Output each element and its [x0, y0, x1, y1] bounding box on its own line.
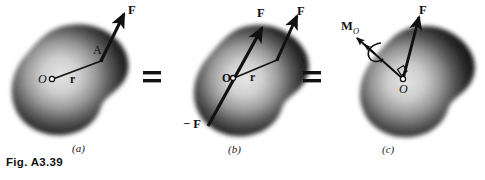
panel-c-blob-grain	[360, 26, 475, 137]
panel-c-label-O: O	[399, 82, 408, 96]
panel-a-label-r: r	[70, 73, 75, 85]
svg-text:M: M	[341, 19, 353, 33]
figure-caption: Fig. A3.39	[6, 156, 63, 168]
svg-text:O: O	[353, 26, 359, 36]
panel-label-a: (a)	[72, 142, 85, 154]
panel-b-label-F-at-O: F	[257, 6, 265, 20]
equals-sign-1-glyph	[143, 71, 161, 82]
panel-b-label-F-at-A: F	[297, 4, 305, 18]
panel-c-origin-dot	[400, 76, 405, 81]
panel-b-label-O: O	[222, 72, 231, 84]
panel-a-label-F: F	[128, 3, 136, 17]
panel-b-origin-dot	[231, 76, 236, 81]
figure-container: F A O r F F − F O r F M O O (a) (b) (c) …	[0, 0, 485, 180]
panel-a-label-O: O	[38, 72, 47, 86]
panel-c-label-Mo: M O	[341, 19, 359, 36]
panel-a-label-A: A	[93, 43, 102, 57]
panel-c-group	[357, 17, 475, 137]
panel-b-label-r: r	[250, 71, 255, 83]
panel-b-label-minus-F: − F	[183, 117, 201, 131]
panel-label-c: (c)	[382, 143, 394, 155]
panel-c-label-F: F	[419, 3, 427, 17]
panel-a-origin-dot	[49, 76, 54, 81]
panel-label-b: (b)	[228, 143, 241, 155]
